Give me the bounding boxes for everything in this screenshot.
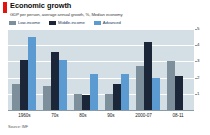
- bar[interactable]: [43, 86, 51, 110]
- economist-red-tab-marker: [3, 2, 7, 13]
- legend-item-label: Low-income: [18, 20, 40, 25]
- x-axis-label: 80s: [79, 113, 86, 118]
- y-tick-label: 5: [197, 27, 199, 31]
- bar[interactable]: [12, 84, 20, 110]
- x-axis-label: 1960s: [18, 113, 30, 118]
- chart-legend: Low-incomeMiddle-incomeAdvanced: [9, 20, 121, 25]
- x-axis-category-labels: 1960s70s80s90s2000-0708-11: [8, 113, 194, 118]
- y-tick-label: 3: [197, 59, 199, 63]
- legend-swatch-icon: [9, 21, 16, 25]
- bar[interactable]: [167, 61, 175, 110]
- bar[interactable]: [74, 94, 82, 110]
- bar-group: [105, 29, 129, 110]
- chart-header: Economic growth GDP per person, average …: [10, 1, 206, 18]
- x-axis-label: 90s: [107, 113, 114, 118]
- bar-group: [167, 29, 191, 110]
- legend-item-label: Middle-income: [58, 20, 85, 25]
- legend-item-middle-income[interactable]: Middle-income: [49, 20, 85, 25]
- legend-item-low-income[interactable]: Low-income: [9, 20, 40, 25]
- chart-title: Economic growth: [10, 1, 206, 11]
- bar-group: [74, 29, 98, 110]
- bar-group: [136, 29, 160, 110]
- bar[interactable]: [51, 52, 59, 110]
- bar[interactable]: [152, 78, 160, 110]
- bar[interactable]: [136, 66, 144, 110]
- economic-growth-chart-figure: Economic growth GDP per person, average …: [0, 0, 210, 135]
- source-note: Source: IMF: [8, 125, 28, 129]
- chart-subtitle: GDP per person, average annual growth, %…: [10, 11, 206, 18]
- bar[interactable]: [90, 74, 98, 110]
- x-axis-label: 08-11: [172, 113, 183, 118]
- legend-item-advanced[interactable]: Advanced: [94, 20, 121, 25]
- x-axis-line: [8, 110, 194, 111]
- y-axis-tick-labels: 54321: [195, 29, 209, 110]
- y-tick-label: 2: [197, 75, 199, 79]
- bar[interactable]: [113, 84, 121, 110]
- legend-swatch-icon: [94, 21, 101, 25]
- bar[interactable]: [105, 94, 113, 110]
- bar[interactable]: [59, 60, 67, 110]
- bar[interactable]: [175, 76, 183, 110]
- bar[interactable]: [82, 95, 90, 110]
- legend-item-label: Advanced: [103, 20, 121, 25]
- bar-group: [43, 29, 67, 110]
- bar[interactable]: [121, 74, 129, 110]
- legend-swatch-icon: [49, 21, 56, 25]
- bar-group: [12, 29, 36, 110]
- y-tick-label: 1: [197, 92, 199, 96]
- bar[interactable]: [144, 42, 152, 110]
- x-axis-label: 70s: [51, 113, 58, 118]
- bar[interactable]: [28, 37, 36, 110]
- y-tick-label: 4: [197, 43, 199, 47]
- plot-area: [8, 29, 194, 110]
- bar-groups-container: [8, 29, 194, 110]
- x-axis-label: 2000-07: [135, 113, 152, 118]
- bar[interactable]: [20, 60, 28, 110]
